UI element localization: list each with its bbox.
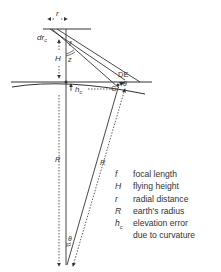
drc-label: drc xyxy=(37,33,47,43)
C-label: C xyxy=(111,84,117,93)
DE-label: DE xyxy=(118,70,128,79)
angle-z-label: z xyxy=(67,56,72,63)
R-left-label: R xyxy=(55,155,61,164)
legend-item-hc-cont: due to curvature xyxy=(113,229,195,241)
r-label: r xyxy=(56,9,59,18)
legend-item-hc: hcelevation error xyxy=(113,217,195,229)
legend-item-H: Hflying height xyxy=(113,180,195,192)
legend-item-f: ffocal length xyxy=(113,168,195,180)
theta-bottom-label: θ xyxy=(68,235,72,242)
radial-line-R xyxy=(67,88,118,265)
legend: ffocal length Hflying height rradial dis… xyxy=(113,168,195,242)
H-label: H xyxy=(55,54,61,63)
legend-item-R: Rearth's radius xyxy=(113,205,195,217)
legend-item-r: rradial distance xyxy=(113,193,195,205)
R-right-label: R xyxy=(100,158,106,167)
theta-right-label: θ xyxy=(123,80,127,87)
hc-label: hc xyxy=(75,85,82,95)
ray-to-C xyxy=(52,29,119,88)
